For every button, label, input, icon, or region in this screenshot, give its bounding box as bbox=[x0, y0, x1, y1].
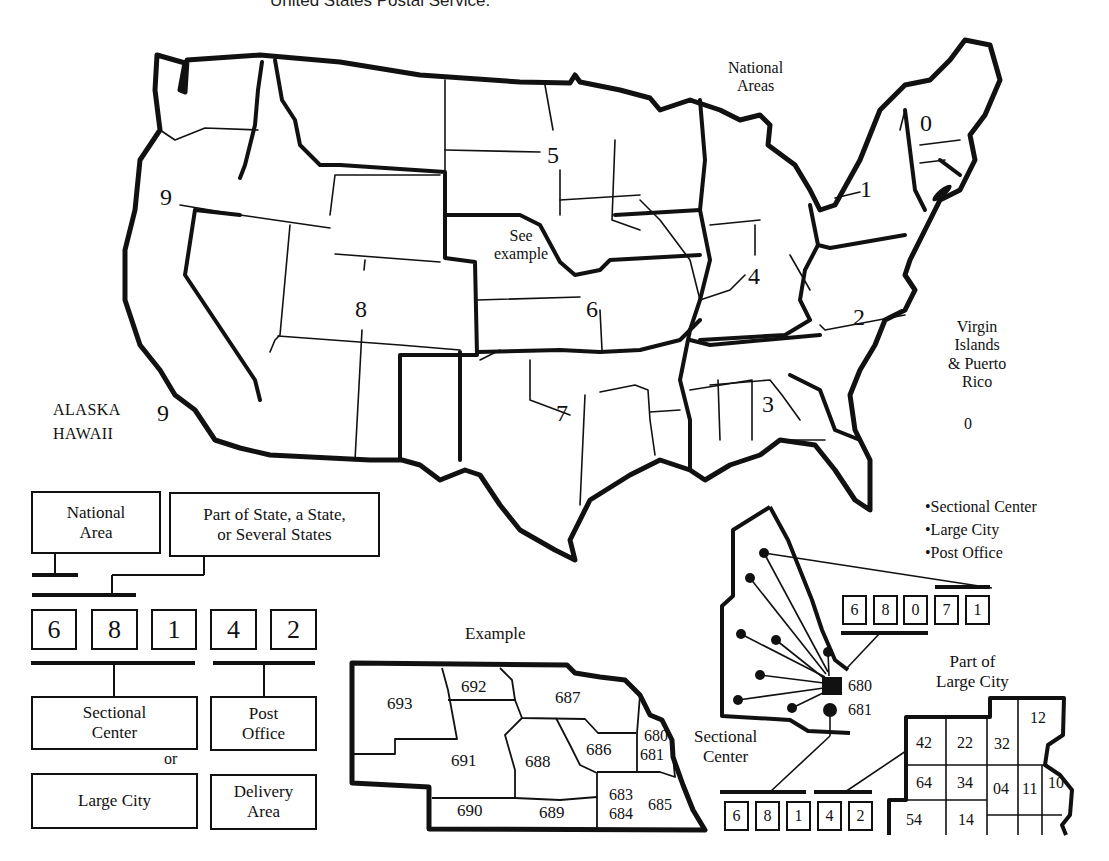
delivery-area-11: 11 bbox=[1022, 780, 1037, 798]
zip-code-diagram: United States Postal Service. bbox=[0, 0, 1109, 861]
delivery-area-64: 64 bbox=[916, 774, 932, 792]
delivery-area-34: 34 bbox=[957, 774, 973, 792]
delivery-area-32: 32 bbox=[994, 735, 1010, 753]
large-city-grid bbox=[0, 0, 1109, 861]
delivery-area-04: 04 bbox=[993, 780, 1009, 798]
delivery-area-22: 22 bbox=[957, 734, 973, 752]
delivery-area-14: 14 bbox=[958, 811, 974, 829]
delivery-area-54: 54 bbox=[906, 811, 922, 829]
delivery-area-42: 42 bbox=[916, 734, 932, 752]
delivery-area-12: 12 bbox=[1030, 709, 1046, 727]
delivery-area-10: 10 bbox=[1048, 774, 1064, 792]
